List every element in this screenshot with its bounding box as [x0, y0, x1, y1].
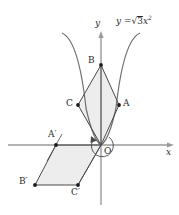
upper-rhombus-fill: [78, 65, 119, 145]
point-dot-A-prime: [54, 143, 58, 147]
equation-equals: =: [124, 16, 132, 26]
point-dot-B-prime: [33, 183, 37, 187]
point-label-B: B: [88, 56, 95, 65]
point-dot-B: [99, 63, 103, 67]
point-label-O: O: [104, 147, 111, 156]
lower-parallelogram-fill: [35, 145, 101, 185]
y-axis-label: y: [95, 19, 100, 28]
point-dot-A: [117, 103, 121, 107]
curve-equation-label: y =√3x2: [116, 15, 152, 26]
point-label-C-prime: C′: [71, 188, 80, 197]
point-dot-C: [76, 103, 80, 107]
point-label-A-prime: A′: [48, 130, 57, 139]
radicand: 3: [137, 16, 143, 26]
x-axis-label: x: [166, 148, 171, 157]
point-label-C: C: [66, 99, 73, 108]
point-label-A: A: [123, 99, 130, 108]
point-label-B-prime: B′: [19, 177, 28, 186]
y-axis-arrowhead: [98, 31, 103, 38]
equation-exponent: 2: [148, 14, 152, 21]
figure-canvas: y x y =√3x2 B A C O A′ B′ C′: [0, 0, 179, 215]
equation-lhs: y: [116, 16, 121, 26]
